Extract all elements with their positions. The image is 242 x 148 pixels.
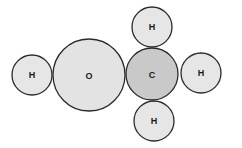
atom-label: H [149,22,156,32]
atom-label: H [151,116,158,126]
atom-label: H [29,70,36,80]
atom-hydrogen-right: H [181,53,221,93]
atom-hydrogen-top: H [132,7,172,47]
atom-label: O [85,71,92,81]
atom-carbon: C [126,48,178,100]
atom-hydrogen-left: H [12,55,52,95]
atom-hydrogen-bottom: H [134,101,174,141]
atom-oxygen: O [53,39,125,111]
methanol-diagram: H H H H O C [0,0,242,148]
atom-label: H [198,68,205,78]
atom-label: C [149,70,156,80]
